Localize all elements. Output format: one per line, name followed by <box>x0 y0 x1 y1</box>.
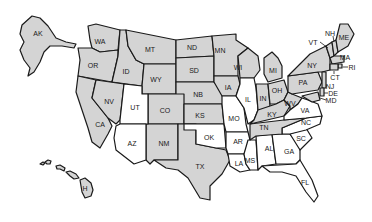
state-ak[interactable] <box>20 16 76 76</box>
state-label-me: ME <box>339 34 350 41</box>
state-fl[interactable] <box>262 160 318 202</box>
state-label-ga: GA <box>284 148 294 155</box>
state-label-fl: FL <box>301 179 309 186</box>
state-label-hi: H <box>82 185 87 192</box>
state-label-mi: MI <box>269 67 277 74</box>
hawaii-island-3[interactable] <box>56 165 65 171</box>
state-label-ok: OK <box>204 134 214 141</box>
state-label-la: LA <box>235 160 244 167</box>
state-label-pa: PA <box>299 79 308 86</box>
state-label-ar: AR <box>233 138 243 145</box>
state-label-wi: WI <box>234 64 243 71</box>
state-label-wa: WA <box>94 38 105 45</box>
state-label-va: VA <box>301 107 310 114</box>
state-label-nc: NC <box>301 119 311 126</box>
state-label-tx: TX <box>196 163 205 170</box>
callout-label-ri: RI <box>349 64 356 71</box>
state-label-wy: WY <box>150 76 162 83</box>
hawaii-island-4[interactable] <box>66 171 79 179</box>
state-label-mt: MT <box>145 46 156 53</box>
state-label-oh: OH <box>272 87 283 94</box>
state-label-id: ID <box>123 68 130 75</box>
state-label-ak: AK <box>33 30 43 37</box>
callout-label-nj: NJ <box>326 83 335 90</box>
callout-label-de: DE <box>328 90 338 97</box>
state-label-il: IL <box>245 96 251 103</box>
state-ct[interactable] <box>330 64 338 70</box>
callout-label-md: MD <box>326 97 337 104</box>
state-label-wv: WV <box>284 100 296 107</box>
state-label-co: CO <box>160 107 171 114</box>
state-label-ca: CA <box>95 121 105 128</box>
state-label-nm: NM <box>159 140 170 147</box>
callout-label-ma: MA <box>340 54 351 61</box>
state-label-or: OR <box>88 62 99 69</box>
state-label-az: AZ <box>128 140 138 147</box>
state-label-in: IN <box>260 95 267 102</box>
state-label-nb: NB <box>193 91 203 98</box>
state-label-ms: MS <box>245 157 256 164</box>
state-label-sc: SC <box>296 135 306 142</box>
us-map: H AKWAORIDMTWYNDSDNBMNIAWICOKSNMTXCANVUT… <box>0 0 372 222</box>
state-label-ia: IA <box>225 84 232 91</box>
callout-label-vt: VT <box>309 39 319 46</box>
callout-label-ct: CT <box>330 74 340 81</box>
state-label-ut: UT <box>130 104 140 111</box>
hawaii-island-2[interactable] <box>45 160 51 164</box>
state-label-tn: TN <box>259 124 268 131</box>
callout-label-nh: NH <box>325 30 335 37</box>
state-label-ky: KY <box>267 111 277 118</box>
state-label-al: AL <box>265 145 274 152</box>
state-label-nv: NV <box>104 98 114 105</box>
state-label-mo: MO <box>228 115 240 122</box>
state-label-ny: NY <box>307 62 317 69</box>
state-label-ks: KS <box>195 112 205 119</box>
state-label-mn: MN <box>215 47 226 54</box>
state-de[interactable] <box>320 88 324 96</box>
hawaii-island-1[interactable] <box>40 162 45 165</box>
hawaii-islands: H <box>40 160 93 198</box>
state-label-nd: ND <box>187 44 197 51</box>
state-label-sd: SD <box>189 67 199 74</box>
